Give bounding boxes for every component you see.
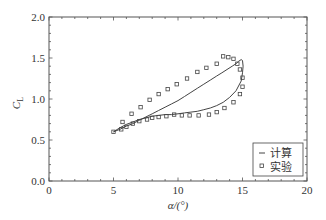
series-marker-experiment xyxy=(148,98,151,101)
y-tick-label: 1.5 xyxy=(31,52,45,64)
series-marker-experiment xyxy=(130,112,133,115)
series-marker-experiment xyxy=(175,83,178,86)
y-axis-title: CL xyxy=(10,97,25,109)
legend-label-experiment: 实验 xyxy=(270,160,292,174)
series-marker-experiment xyxy=(223,106,226,109)
x-tick-label: 10 xyxy=(173,184,185,196)
series-marker-experiment xyxy=(207,113,210,116)
legend: 计算 实验 xyxy=(253,143,303,176)
plot-area xyxy=(112,55,244,134)
series-marker-experiment xyxy=(227,55,230,58)
series-marker-experiment xyxy=(215,62,218,65)
y-tick-label: 0.5 xyxy=(31,134,45,146)
x-axis-title: α/(°) xyxy=(168,199,189,212)
series-marker-experiment xyxy=(121,120,124,123)
x-tick-label: 15 xyxy=(237,184,249,196)
legend-label-computed: 计算 xyxy=(270,146,292,160)
y-tick-label: 1.0 xyxy=(31,93,45,105)
series-marker-experiment xyxy=(238,68,241,71)
series-marker-experiment xyxy=(180,114,183,117)
x-tick-label: 0 xyxy=(46,184,52,196)
series-marker-experiment xyxy=(238,92,241,95)
series-line-computed xyxy=(114,60,244,132)
series-marker-experiment xyxy=(196,70,199,73)
series-marker-experiment xyxy=(188,114,191,117)
series-marker-experiment xyxy=(157,92,160,95)
y-tick-label: 0.0 xyxy=(31,175,45,187)
series-marker-experiment xyxy=(221,55,224,58)
y-axis-title-sub: L xyxy=(16,97,25,102)
x-tick-label: 20 xyxy=(302,184,314,196)
series-marker-experiment xyxy=(215,110,218,113)
series-marker-experiment xyxy=(139,106,142,109)
series-marker-experiment xyxy=(166,87,169,90)
chart-svg: 051015200.00.51.01.52.0 CL α/(°) 计算 实验 xyxy=(0,0,326,220)
series-marker-experiment xyxy=(232,101,235,104)
series-marker-experiment xyxy=(197,114,200,117)
series-marker-experiment xyxy=(241,85,244,88)
x-tick-label: 5 xyxy=(111,184,117,196)
series-marker-experiment xyxy=(185,77,188,80)
series-marker-experiment xyxy=(205,66,208,69)
series-marker-experiment xyxy=(232,57,235,60)
y-tick-label: 2.0 xyxy=(31,11,45,23)
